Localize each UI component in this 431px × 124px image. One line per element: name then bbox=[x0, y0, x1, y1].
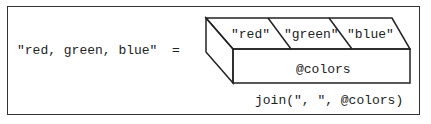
array-name: @colors bbox=[296, 63, 351, 76]
array-element-red: "red" bbox=[231, 28, 270, 41]
equals-sign: = bbox=[172, 44, 180, 57]
array-element-blue: "blue" bbox=[347, 28, 394, 41]
array-element-green: "green" bbox=[284, 28, 339, 41]
array-left-face bbox=[206, 18, 233, 83]
join-expression: join(", ", @colors) bbox=[255, 94, 403, 107]
result-string: "red, green, blue" bbox=[17, 44, 157, 57]
